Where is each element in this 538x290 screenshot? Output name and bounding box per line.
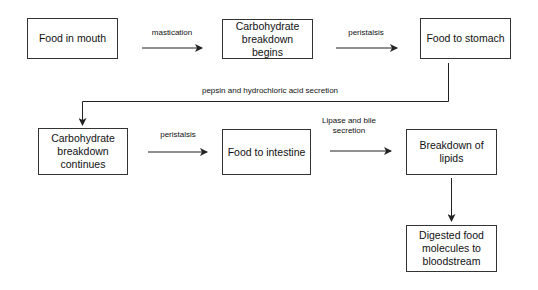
node-label: Carbohydrate breakdown begins xyxy=(227,20,308,59)
edge-label-lipase: Lipase and bile secretion xyxy=(316,116,382,136)
node-label: Carbohydrate breakdown continues xyxy=(51,132,115,171)
node-label: Food in mouth xyxy=(39,32,106,45)
node-digested-food-to-bloodstream: Digested food molecules to bloodstream xyxy=(406,225,497,272)
node-food-to-intestine: Food to intestine xyxy=(222,129,311,175)
edge-label-peristalsis-2: peristalsis xyxy=(148,130,208,140)
node-label: Digested food molecules to bloodstream xyxy=(417,229,486,268)
node-food-to-stomach: Food to stomach xyxy=(420,18,511,59)
node-carbohydrate-breakdown-begins: Carbohydrate breakdown begins xyxy=(222,19,313,59)
node-breakdown-of-lipids: Breakdown of lipids xyxy=(406,129,497,175)
edge-label-peristalsis-1: peristalsis xyxy=(336,28,396,38)
node-food-in-mouth: Food in mouth xyxy=(27,18,118,59)
node-carbohydrate-breakdown-continues: Carbohydrate breakdown continues xyxy=(38,128,128,175)
node-label: Food to intestine xyxy=(228,146,306,159)
edge-label-mastication: mastication xyxy=(140,28,204,38)
edge-label-pepsin: pepsin and hydrochloric acid secretion xyxy=(160,86,380,96)
node-label: Food to stomach xyxy=(426,32,504,45)
node-label: Breakdown of lipids xyxy=(419,139,484,165)
